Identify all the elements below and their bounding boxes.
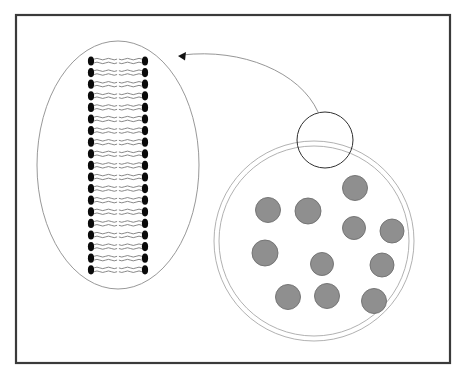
lipid-head	[88, 138, 94, 147]
granule	[315, 284, 340, 309]
lipid-head	[88, 149, 94, 158]
lipid-head	[142, 184, 148, 193]
lipid-head	[142, 172, 148, 181]
lipid-head	[142, 161, 148, 170]
lipid-head	[88, 265, 94, 274]
lipid-head	[142, 126, 148, 135]
lipid-head	[142, 80, 148, 89]
lipid-head	[142, 56, 148, 65]
lipid-head	[88, 242, 94, 251]
lipid-head	[88, 91, 94, 100]
lipid-head	[88, 103, 94, 112]
lipid-head	[142, 242, 148, 251]
lipid-head	[88, 161, 94, 170]
lipid-head	[88, 80, 94, 89]
lipid-head	[142, 230, 148, 239]
lipid-head	[88, 114, 94, 123]
lipid-head	[142, 138, 148, 147]
lipid-head	[142, 196, 148, 205]
lipid-head	[142, 114, 148, 123]
lipid-head	[88, 56, 94, 65]
lipid-head	[142, 68, 148, 77]
granule	[252, 240, 278, 266]
lipid-head	[142, 219, 148, 228]
lipid-head	[88, 230, 94, 239]
lipid-head	[88, 207, 94, 216]
granule	[380, 219, 404, 243]
granule	[256, 198, 281, 223]
lipid-head	[142, 149, 148, 158]
granule	[276, 285, 301, 310]
lipid-head	[88, 219, 94, 228]
lipid-head	[142, 254, 148, 263]
lipid-head	[88, 184, 94, 193]
lipid-head	[88, 172, 94, 181]
lipid-head	[88, 126, 94, 135]
lipid-head	[142, 91, 148, 100]
lipid-head	[88, 196, 94, 205]
lipid-head	[142, 265, 148, 274]
granule	[362, 289, 387, 314]
figure-root	[0, 0, 466, 383]
granule	[343, 176, 368, 201]
granule	[295, 198, 321, 224]
granule	[311, 253, 334, 276]
lipid-head	[142, 103, 148, 112]
lipid-head	[88, 254, 94, 263]
lipid-head	[88, 68, 94, 77]
figure-canvas	[0, 0, 466, 383]
granule	[343, 217, 366, 240]
granule	[370, 253, 394, 277]
lipid-head	[142, 207, 148, 216]
